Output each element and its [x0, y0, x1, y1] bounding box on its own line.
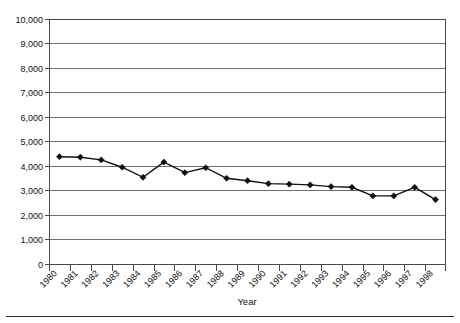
x-tick-label: 1996 [372, 268, 393, 289]
x-tick-label: 1986 [163, 268, 184, 289]
data-point [77, 154, 83, 160]
data-point [98, 157, 104, 163]
x-tick-label: 1994 [330, 268, 351, 289]
chart-figure: 10,000 9,000 8,000 7,000 6,000 5,000 4,0… [0, 0, 460, 323]
y-tick-label: 5,000 [20, 137, 43, 147]
data-point [56, 154, 62, 160]
data-point [349, 184, 355, 190]
data-point [412, 184, 418, 190]
grid-lines [49, 44, 446, 240]
y-tick-label: 2,000 [20, 211, 43, 221]
y-tick-label: 1,000 [20, 235, 43, 245]
data-point [286, 181, 292, 187]
x-axis-tick-labels: 1980198119821983198419851986198719881989… [38, 268, 435, 289]
data-point [432, 196, 438, 202]
data-point [182, 170, 188, 176]
y-tick-label: 3,000 [20, 186, 43, 196]
y-axis-tick-labels: 10,000 9,000 8,000 7,000 6,000 5,000 4,0… [15, 15, 43, 270]
y-tick-label: 4,000 [20, 162, 43, 172]
x-tick-label: 1992 [288, 268, 309, 289]
y-tick-label: 6,000 [20, 113, 43, 123]
x-tick-label: 1983 [100, 268, 121, 289]
data-point [307, 182, 313, 188]
x-tick-label: 1988 [205, 268, 226, 289]
x-tick-label: 1993 [309, 268, 330, 289]
x-tick-label: 1989 [226, 268, 247, 289]
data-point [244, 178, 250, 184]
x-tick-label: 1995 [351, 268, 372, 289]
x-tick-label: 1984 [121, 268, 142, 289]
y-tick-label: 10,000 [15, 15, 43, 25]
data-point [265, 181, 271, 187]
data-point [370, 193, 376, 199]
x-tick-label: 1990 [247, 268, 268, 289]
x-tick-label: 1980 [38, 268, 59, 289]
data-point [224, 175, 230, 181]
x-tick-label: 1981 [59, 268, 80, 289]
y-axis-ticks [45, 20, 49, 265]
x-tick-label: 1991 [267, 268, 288, 289]
data-point [119, 164, 125, 170]
x-tick-label: 1987 [184, 268, 205, 289]
y-tick-label: 7,000 [20, 88, 43, 98]
x-tick-label: 1985 [142, 268, 163, 289]
y-tick-label: 0 [38, 260, 43, 270]
data-series [56, 154, 438, 203]
x-tick-label: 1998 [414, 268, 435, 289]
x-axis-title: Year [237, 296, 256, 307]
y-tick-label: 8,000 [20, 64, 43, 74]
data-point [328, 183, 334, 189]
data-point [391, 193, 397, 199]
x-tick-label: 1982 [79, 268, 100, 289]
x-tick-label: 1997 [393, 268, 414, 289]
y-tick-label: 9,000 [20, 39, 43, 49]
line-chart-svg: 10,000 9,000 8,000 7,000 6,000 5,000 4,0… [0, 0, 460, 323]
